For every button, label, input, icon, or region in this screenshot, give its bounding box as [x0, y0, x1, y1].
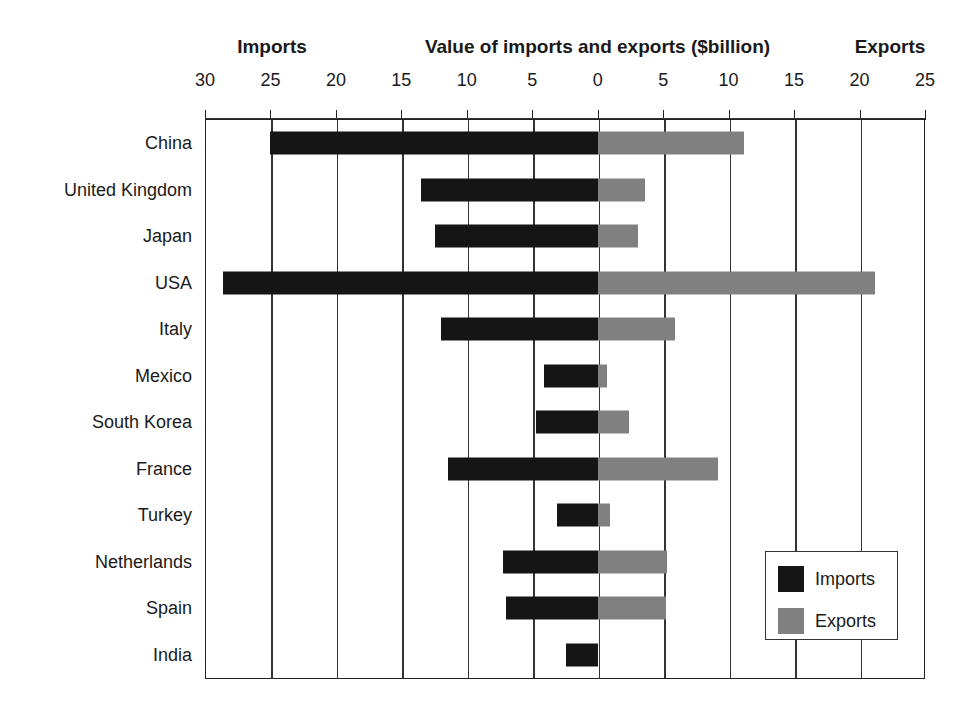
x-tick-label: 5 [512, 70, 552, 91]
bar-imports [435, 225, 597, 248]
bar-exports [598, 271, 876, 294]
legend-swatch-icon [778, 566, 804, 592]
x-axis-tick-labels: 302520151050510152025 [0, 70, 968, 92]
bar-imports [506, 597, 598, 620]
x-tick-label: 20 [316, 70, 356, 91]
bar-imports [223, 271, 597, 294]
legend-swatch-icon [778, 608, 804, 634]
chart-canvas: Imports Value of imports and exports ($b… [0, 0, 968, 718]
category-label: United Kingdom [64, 179, 192, 200]
category-label: Japan [143, 226, 192, 247]
bar-imports [448, 457, 597, 480]
imports-side-label: Imports [205, 36, 339, 58]
category-label: South Korea [92, 412, 192, 433]
x-tick-label: 5 [643, 70, 683, 91]
gridline [533, 120, 535, 678]
gridline [337, 120, 339, 678]
gridline [468, 120, 470, 678]
chart-title: Value of imports and exports ($billion) [370, 36, 825, 58]
bar-exports [598, 550, 667, 573]
gridline [599, 120, 601, 678]
category-label: Turkey [138, 505, 192, 526]
bar-imports [566, 643, 597, 666]
legend-item: Imports [778, 566, 875, 592]
bar-exports [598, 132, 745, 155]
x-tick-label: 0 [578, 70, 618, 91]
x-tick-label: 15 [774, 70, 814, 91]
category-label: Italy [159, 319, 192, 340]
legend-label: Imports [815, 569, 875, 590]
x-tick-label: 25 [905, 70, 945, 91]
bar-exports [598, 457, 718, 480]
bar-exports [598, 597, 666, 620]
x-tick-label: 10 [447, 70, 487, 91]
x-tick-label: 15 [381, 70, 421, 91]
category-label: Netherlands [95, 551, 192, 572]
bar-exports [598, 504, 610, 527]
legend-item: Exports [778, 608, 876, 634]
legend-label: Exports [815, 611, 876, 632]
category-label: France [136, 458, 192, 479]
x-tick-label: 20 [840, 70, 880, 91]
bar-imports [503, 550, 597, 573]
bar-imports [441, 318, 598, 341]
gridline [730, 120, 732, 678]
gridline [402, 120, 404, 678]
bar-imports [557, 504, 598, 527]
bar-exports [598, 364, 607, 387]
category-label: USA [155, 272, 192, 293]
bar-exports [598, 318, 675, 341]
x-tick-label: 30 [185, 70, 225, 91]
bar-imports [544, 364, 598, 387]
exports-side-label: Exports [840, 36, 940, 58]
category-label: India [153, 644, 192, 665]
bar-exports [598, 411, 629, 434]
gridline [664, 120, 666, 678]
bar-imports [421, 178, 598, 201]
bar-exports [598, 225, 639, 248]
category-label: Mexico [135, 365, 192, 386]
x-tick-label: 10 [709, 70, 749, 91]
bar-imports [536, 411, 598, 434]
x-tick-mark [925, 110, 926, 120]
bar-exports [598, 178, 645, 201]
x-tick-label: 25 [250, 70, 290, 91]
category-label: Spain [146, 598, 192, 619]
category-label: China [145, 133, 192, 154]
chart-legend: ImportsExports [765, 551, 898, 640]
gridline [271, 120, 273, 678]
bar-imports [270, 132, 597, 155]
